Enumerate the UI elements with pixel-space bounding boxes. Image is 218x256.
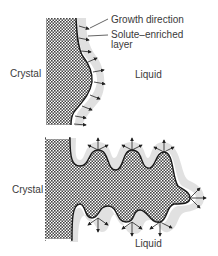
diagram-canvas [0, 0, 218, 256]
solute-layer-leader [88, 35, 108, 36]
solute-layer-label: layer [111, 39, 133, 50]
top-panel [46, 18, 108, 126]
growth-direction-leader [90, 19, 108, 28]
bottom-panel [46, 138, 206, 242]
top-crystal-label: Crystal [10, 68, 41, 79]
growth-direction-label: Growth direction [111, 14, 184, 25]
top-liquid-label: Liquid [135, 69, 162, 80]
bottom-liquid-label: Liquid [135, 238, 162, 249]
bottom-crystal-label: Crystal [12, 184, 43, 195]
